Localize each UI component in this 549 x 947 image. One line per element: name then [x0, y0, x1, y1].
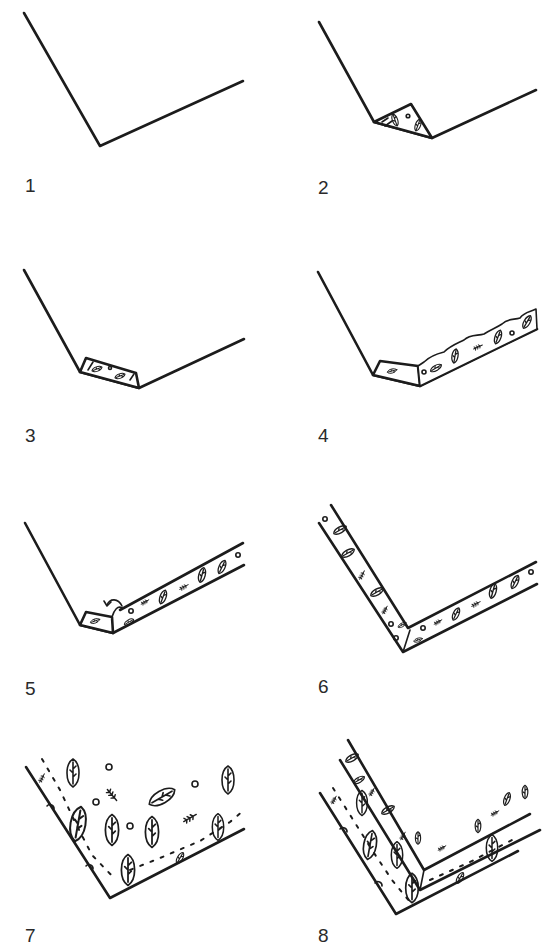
- drawing-canvas: [0, 0, 549, 947]
- step-1-drawing: [24, 13, 243, 146]
- step-4-drawing: [318, 272, 537, 386]
- step-label-7: 7: [25, 926, 36, 945]
- step-label-3: 3: [25, 426, 36, 445]
- step-5-drawing: [25, 523, 244, 633]
- step-label-6: 6: [318, 677, 329, 696]
- step-6-drawing: [319, 505, 537, 652]
- step-label-2: 2: [318, 178, 329, 197]
- step-7-drawing: [26, 759, 244, 898]
- step-label-4: 4: [318, 426, 329, 445]
- step-label-1: 1: [25, 176, 36, 195]
- curl-arrow-icon: [104, 600, 122, 606]
- step-8-drawing: [320, 740, 540, 914]
- step-label-5: 5: [25, 679, 36, 698]
- step-label-8: 8: [318, 926, 329, 945]
- step-2-drawing: [319, 22, 536, 138]
- step-3-drawing: [24, 270, 244, 388]
